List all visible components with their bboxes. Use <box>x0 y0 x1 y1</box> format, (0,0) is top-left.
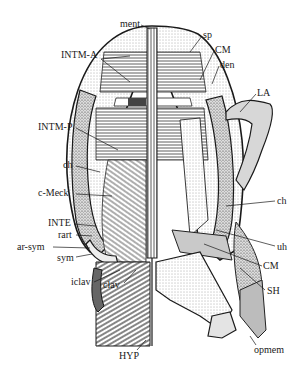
label-den: den <box>220 60 234 70</box>
opercular-membrane <box>240 280 266 338</box>
label-hyp: HYP <box>119 351 139 361</box>
label-ch-left: ch <box>63 160 72 170</box>
label-ment: ment <box>120 19 140 29</box>
label-sp: sp <box>203 30 212 40</box>
label-cm-bottom: CM <box>263 261 279 271</box>
label-intm-a: INTM-A <box>61 50 97 60</box>
label-c-meck: c-Meck <box>38 188 69 198</box>
label-cm-top: CM <box>215 45 231 55</box>
midline-bar <box>147 28 157 258</box>
inte-muscle <box>102 160 146 262</box>
label-iclav: iclav <box>71 277 90 287</box>
label-ar-sym: ar-sym <box>17 242 45 252</box>
label-rart: rart <box>58 230 72 240</box>
label-ch-right: ch <box>277 196 286 206</box>
label-la: LA <box>257 88 270 98</box>
label-sh: SH <box>267 286 280 296</box>
label-inte: INTE <box>48 218 71 228</box>
label-opmem: opmem <box>254 345 284 355</box>
hypaxial-muscle <box>96 262 150 346</box>
label-sym: sym <box>57 253 74 263</box>
pectoral-process <box>208 312 236 338</box>
label-intm-p: INTM-P <box>38 122 72 132</box>
label-uh: uh <box>277 242 287 252</box>
label-clav: clav <box>103 280 120 290</box>
